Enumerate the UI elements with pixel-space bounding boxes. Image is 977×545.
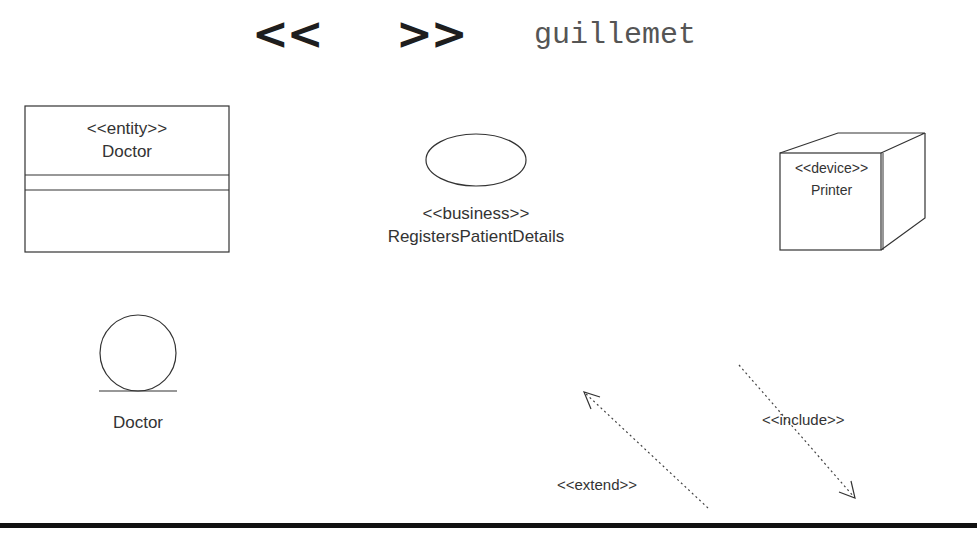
device-name: Printer [780, 180, 883, 200]
bottom-rule [0, 523, 977, 528]
use-case-stereotype: <<business>> [326, 203, 626, 225]
extend-label: <<extend>> [557, 475, 637, 495]
use-case-ellipse[interactable] [426, 134, 526, 186]
include-label: <<include>> [762, 410, 845, 430]
guillemet-caption: guillemet [534, 20, 696, 50]
diagram-canvas [0, 0, 977, 545]
use-case-name: RegistersPatientDetails [326, 226, 626, 248]
left-guillemet: << [252, 12, 322, 56]
entity-icon[interactable] [99, 315, 177, 391]
include-arrow[interactable] [739, 365, 855, 498]
right-guillemet: >> [396, 12, 466, 56]
entity-class-stereotype: <<entity>> [25, 118, 229, 140]
entity-icon-label: Doctor [88, 412, 188, 434]
entity-class-name: Doctor [25, 141, 229, 163]
device-stereotype: <<device>> [780, 158, 883, 178]
